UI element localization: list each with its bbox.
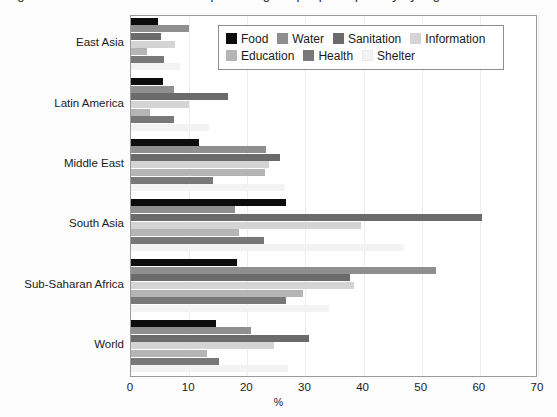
bar-group [131, 78, 536, 131]
bar [131, 18, 158, 25]
bar [131, 358, 219, 365]
bar [131, 48, 147, 55]
legend-swatch-icon [333, 33, 344, 44]
bar [131, 124, 209, 131]
bar-chart: Figure 1. Unmet basic needs as a percent… [0, 0, 557, 417]
bar [131, 116, 174, 123]
bar [131, 320, 216, 327]
legend-entry: Education [226, 49, 303, 63]
legend-swatch-icon [362, 50, 373, 61]
bar [131, 282, 354, 289]
figure-title-text: Figure 1. Unmet basic needs as a percent… [6, 0, 458, 2]
legend-label: Information [425, 32, 485, 46]
bar-group [131, 139, 536, 192]
bar [131, 177, 213, 184]
gridline [538, 16, 539, 376]
legend-swatch-icon [277, 33, 288, 44]
bar [131, 93, 228, 100]
x-axis-tick: 0 [127, 381, 133, 393]
bar [131, 244, 404, 251]
bar [131, 335, 309, 342]
bar [131, 267, 436, 274]
legend-swatch-icon [303, 50, 314, 61]
legend-entry: Information [410, 32, 494, 46]
x-axis-tick: 30 [298, 381, 311, 393]
bar [131, 305, 329, 312]
legend-entry: Food [226, 32, 277, 46]
bar [131, 146, 266, 153]
bar [131, 169, 265, 176]
legend-row: FoodWaterSanitationInformation [226, 30, 497, 47]
bar [131, 139, 199, 146]
bar [131, 56, 164, 63]
x-axis-tick: 50 [414, 381, 427, 393]
legend-label: Shelter [377, 49, 415, 63]
x-axis-tick: 10 [182, 381, 195, 393]
legend-entry: Sanitation [333, 32, 410, 46]
bar [131, 101, 189, 108]
bar-group [131, 259, 536, 312]
bar [131, 214, 482, 221]
bar-group [131, 320, 536, 373]
bar [131, 365, 288, 372]
figure-title-sliver: Figure 1. Unmet basic needs as a percent… [0, 0, 557, 13]
x-axis-tick: 40 [356, 381, 369, 393]
bar [131, 161, 269, 168]
bar [131, 184, 285, 191]
bar [131, 86, 174, 93]
y-axis-label: Sub-Saharan Africa [24, 278, 124, 290]
legend-label: Water [292, 32, 324, 46]
bar [131, 290, 303, 297]
legend-swatch-icon [410, 33, 421, 44]
legend-swatch-icon [226, 33, 237, 44]
bar [131, 199, 286, 206]
y-axis-label: South Asia [69, 217, 124, 229]
legend-entry: Health [303, 49, 362, 63]
bar [131, 350, 207, 357]
bar [131, 63, 180, 70]
bar [131, 327, 251, 334]
legend-label: Sanitation [348, 32, 401, 46]
bar-group [131, 199, 536, 252]
y-axis-label: World [94, 338, 124, 350]
x-axis-tick: 20 [240, 381, 253, 393]
legend-label: Food [241, 32, 268, 46]
x-axis-tick: 60 [472, 381, 485, 393]
chart-legend: FoodWaterSanitationInformationEducationH… [218, 25, 504, 70]
y-axis-label: Latin America [54, 97, 124, 109]
bar [131, 78, 163, 85]
bar [131, 259, 237, 266]
y-axis-label: East Asia [76, 36, 124, 48]
bar [131, 41, 175, 48]
legend-swatch-icon [226, 50, 237, 61]
bar [131, 109, 150, 116]
bar [131, 25, 189, 32]
bar [131, 222, 361, 229]
x-axis-tick: 70 [531, 381, 544, 393]
bar [131, 229, 239, 236]
legend-label: Education [241, 49, 294, 63]
legend-label: Health [318, 49, 353, 63]
legend-row: EducationHealthShelter [226, 47, 497, 64]
bar [131, 297, 286, 304]
x-axis-title: % [0, 396, 557, 408]
bar [131, 33, 161, 40]
bar [131, 206, 235, 213]
bar [131, 237, 264, 244]
bar [131, 154, 280, 161]
y-axis-label: Middle East [64, 157, 124, 169]
legend-entry: Shelter [362, 49, 424, 63]
bar [131, 342, 274, 349]
bar [131, 274, 350, 281]
legend-entry: Water [277, 32, 333, 46]
